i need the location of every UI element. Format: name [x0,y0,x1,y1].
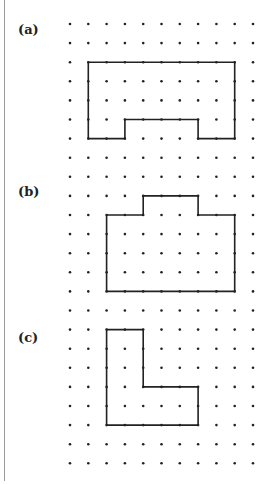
grid-dot [142,347,145,350]
grid-dot [179,214,182,217]
grid-dot [142,137,145,140]
grid-dot [87,462,90,465]
grid-dot [160,462,163,465]
grid-dot [69,195,72,198]
grid-dot [197,424,200,427]
grid-dot [105,271,108,274]
grid-dot [252,42,255,45]
grid-dot [215,443,218,446]
grid-dot [87,347,90,350]
grid-dot [105,176,108,179]
grid-dot [69,386,72,389]
grid-dot [160,328,163,331]
grid-dot [69,347,72,350]
grid-dot [142,462,145,465]
grid-dot [124,233,127,236]
grid-dot [197,99,200,102]
grid-dot [179,156,182,159]
grid-dot [87,290,90,293]
grid-dot [69,424,72,427]
grid-dot [160,156,163,159]
grid-dot [197,214,200,217]
grid-dot [252,80,255,83]
grid-dot [87,118,90,121]
grid-dot [105,386,108,389]
grid-dot [179,271,182,274]
grid-dot [197,176,200,179]
grid-dot [105,156,108,159]
grid-dot [142,156,145,159]
grid-dot [124,290,127,293]
grid-dot [233,328,236,331]
grid-dot [160,99,163,102]
grid-dot [105,118,108,121]
grid-dot [252,195,255,198]
grid-dot [215,405,218,408]
grid-dot [124,137,127,140]
grid-dot [197,386,200,389]
grid-dot [160,386,163,389]
grid-dot [233,23,236,26]
grid-dot [252,462,255,465]
grid-dot [233,195,236,198]
grid-dot [233,309,236,312]
grid-dot [124,386,127,389]
grid-dot [179,309,182,312]
grid-dot [105,443,108,446]
grid-dot [215,367,218,370]
grid-dot [142,405,145,408]
grid-dot [215,328,218,331]
grid-dot [69,42,72,45]
grid-dot [197,347,200,350]
grid-dot [233,118,236,121]
grid-dot [105,328,108,331]
grid-dot [233,99,236,102]
grid-dot [160,137,163,140]
grid-dot [69,405,72,408]
grid-dot [179,80,182,83]
grid-dot [233,42,236,45]
grid-dot [215,156,218,159]
shape-b-outline [107,196,235,292]
grid-dot [142,61,145,64]
grid-dot [197,271,200,274]
grid-dot [179,290,182,293]
grid-dot [124,195,127,198]
grid-dot [69,233,72,236]
grid-dot [160,233,163,236]
grid-dot [124,424,127,427]
grid-dot [87,176,90,179]
grid-dot [197,42,200,45]
grid-dot [233,214,236,217]
grid-dot [197,328,200,331]
grid-dot [215,233,218,236]
grid-dot [215,386,218,389]
grid-dot [142,386,145,389]
grid-dot [215,23,218,26]
grid-dot [233,252,236,255]
grid-dot [69,252,72,255]
grid-dot [179,137,182,140]
grid-dot [179,367,182,370]
grid-dot [142,443,145,446]
dot-grid-diagram [0,0,279,484]
grid-dot [252,386,255,389]
grid-dot [142,118,145,121]
grid-dot [252,156,255,159]
grid-dot [160,309,163,312]
grid-dot [105,367,108,370]
grid-dot [215,176,218,179]
grid-dot [69,99,72,102]
grid-dot [87,271,90,274]
grid-dot [197,195,200,198]
grid-dot [87,443,90,446]
grid-dot [160,176,163,179]
grid-dot [179,443,182,446]
grid-dot [142,367,145,370]
grid-dot [87,42,90,45]
grid-dot [69,61,72,64]
grid-dot [87,61,90,64]
grid-dot [252,367,255,370]
grid-dot [124,99,127,102]
grid-dot [179,252,182,255]
